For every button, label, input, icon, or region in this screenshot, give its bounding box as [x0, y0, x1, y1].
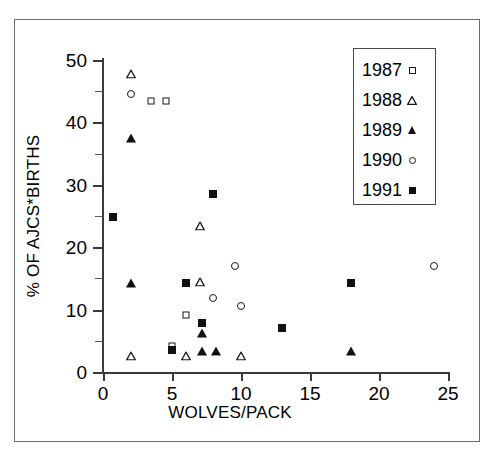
scatter-plot-figure: % OF AJCS*BIRTHS WOLVES/PACK 01020304050…	[0, 0, 494, 461]
y-minor-tick-15	[95, 278, 103, 279]
data-point-1988-1	[195, 216, 205, 225]
y-tick-label-20: 20	[66, 238, 87, 257]
y-tick-label-0: 0	[76, 363, 87, 382]
legend-label-1987: 1987	[362, 61, 402, 79]
y-tick-label-10: 10	[66, 300, 87, 319]
x-tick-label-0: 0	[98, 384, 109, 403]
legend-label-1988: 1988	[362, 91, 402, 109]
data-point-1989-0	[126, 134, 136, 143]
legend-item-1987: 1987	[354, 55, 435, 85]
data-point-1989-2	[197, 328, 207, 337]
legend-marker-filled-square-icon	[406, 184, 418, 196]
x-axis-label-text: WOLVES/PACK	[168, 403, 291, 422]
legend-box: 19871988198919901991	[353, 48, 436, 205]
data-point-1991-1	[209, 190, 217, 198]
y-minor-tick-5	[95, 341, 103, 342]
legend-label-1991: 1991	[362, 181, 402, 199]
x-tick-25	[448, 372, 450, 381]
y-tick-50: 50	[93, 60, 103, 62]
legend-label-1990: 1990	[362, 151, 402, 169]
legend-item-1991: 1991	[354, 175, 435, 205]
legend-swatch-shape	[409, 187, 416, 194]
data-point-1991-4	[198, 319, 206, 327]
legend-swatch-shape	[408, 126, 416, 134]
data-point-1989-5	[346, 346, 356, 355]
x-tick-label-25: 25	[437, 384, 458, 403]
data-point-1990-2	[209, 294, 217, 302]
y-tick-label-40: 40	[66, 113, 87, 132]
y-minor-tick-25	[95, 216, 103, 217]
data-point-1990-3	[237, 302, 245, 310]
y-minor-tick-45	[95, 91, 103, 92]
x-tick-label-15: 15	[299, 384, 320, 403]
x-tick-label-5: 5	[167, 384, 178, 403]
legend-swatch-shape	[409, 67, 416, 74]
data-point-1989-1	[126, 279, 136, 288]
data-point-1988-2	[195, 273, 205, 282]
x-tick-10	[241, 372, 243, 381]
x-tick-20	[379, 372, 381, 381]
y-axis-label: % OF AJCS*BIRTHS	[24, 135, 44, 298]
y-tick-30: 30	[93, 185, 103, 187]
data-point-1987-0	[148, 97, 155, 104]
data-point-1991-6	[168, 346, 176, 354]
data-point-1989-4	[211, 346, 221, 355]
data-point-1991-0	[109, 213, 117, 221]
data-point-1987-2	[182, 311, 189, 318]
data-point-1988-0	[126, 65, 136, 74]
legend-marker-open-triangle-icon	[406, 94, 418, 106]
legend-item-1988: 1988	[354, 85, 435, 115]
data-point-1991-5	[278, 324, 286, 332]
x-tick-5	[172, 372, 174, 381]
legend-label-1989: 1989	[362, 121, 402, 139]
x-axis-line	[102, 372, 450, 374]
x-axis-label: WOLVES/PACK	[168, 403, 291, 423]
data-point-1991-3	[347, 279, 355, 287]
data-point-1988-3	[126, 347, 136, 356]
legend-item-1990: 1990	[354, 145, 435, 175]
data-point-1988-5	[236, 346, 246, 355]
data-point-1991-2	[182, 279, 190, 287]
legend-marker-filled-triangle-icon	[406, 124, 418, 136]
data-point-1990-4	[430, 262, 438, 270]
y-tick-10: 10	[93, 310, 103, 312]
x-tick-label-10: 10	[230, 384, 251, 403]
data-point-1988-4	[181, 346, 191, 355]
y-minor-tick-35	[95, 154, 103, 155]
y-tick-40: 40	[93, 122, 103, 124]
y-tick-label-30: 30	[66, 175, 87, 194]
legend-swatch-shape	[409, 157, 416, 164]
y-axis-label-text: % OF AJCS*BIRTHS	[24, 135, 43, 298]
data-point-1989-3	[197, 346, 207, 355]
legend-marker-open-square-icon	[406, 64, 418, 76]
y-tick-20: 20	[93, 247, 103, 249]
y-tick-0: 0	[93, 372, 103, 374]
legend-item-1989: 1989	[354, 115, 435, 145]
data-point-1987-1	[163, 97, 170, 104]
legend-marker-open-circle-icon	[406, 154, 418, 166]
data-point-1990-1	[231, 262, 239, 270]
x-tick-label-20: 20	[368, 384, 389, 403]
data-point-1990-0	[127, 90, 135, 98]
y-tick-label-50: 50	[66, 51, 87, 70]
x-tick-0	[103, 372, 105, 381]
x-tick-15	[310, 372, 312, 381]
